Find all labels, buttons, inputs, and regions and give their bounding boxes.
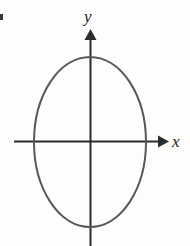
x-axis-arrow-icon (158, 136, 169, 148)
x-axis-label: x (172, 133, 180, 150)
figure-canvas (0, 0, 190, 246)
y-axis-label: y (84, 8, 92, 25)
ellipse-figure: y x (0, 0, 190, 246)
y-axis-arrow-icon (85, 29, 97, 40)
left-edge-artifact-mark (0, 14, 3, 20)
